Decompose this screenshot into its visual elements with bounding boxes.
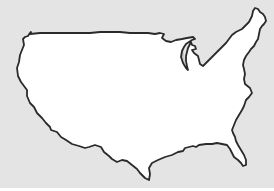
- contiguous-us-outline: [17, 8, 266, 180]
- map-canvas: [0, 0, 274, 191]
